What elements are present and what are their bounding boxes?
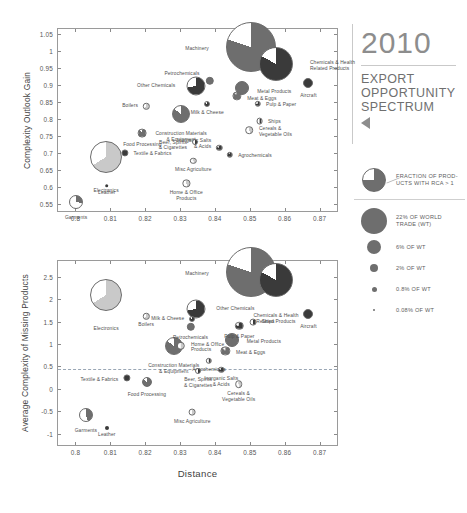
- data-point-label: Ships: [268, 119, 281, 125]
- data-point-bubble[interactable]: [216, 145, 222, 151]
- y-tick-mark: [58, 434, 61, 435]
- data-point-label: Other Chemicals: [216, 306, 254, 312]
- subtitle-line-3: SPECTRUM: [361, 100, 467, 114]
- y-tick-label: 0.75: [40, 133, 53, 140]
- data-point-bubble[interactable]: [250, 319, 257, 326]
- data-point-bubble[interactable]: [143, 103, 149, 109]
- y-tick-mark: [58, 85, 61, 86]
- data-point-label: Petrochemicals: [173, 335, 208, 341]
- data-point-bubble[interactable]: [190, 157, 196, 163]
- data-point-bubble[interactable]: [255, 101, 261, 107]
- data-point-bubble[interactable]: [69, 195, 83, 209]
- x-tick-mark: [180, 442, 181, 445]
- data-point-bubble[interactable]: [259, 47, 293, 81]
- data-point-label: Agrochemicals: [238, 153, 272, 159]
- data-point-label: Metal Products: [257, 89, 291, 95]
- data-point-bubble[interactable]: [235, 322, 243, 330]
- x-tick-mark: [110, 442, 111, 445]
- x-tick-mark: [285, 442, 286, 445]
- data-point-bubble[interactable]: [172, 105, 190, 123]
- y-tick-label: 1.05: [40, 31, 53, 38]
- y-tick-mark-right: [334, 322, 337, 323]
- data-point-bubble[interactable]: [177, 342, 185, 350]
- data-point-bubble[interactable]: [204, 101, 210, 107]
- data-point-bubble[interactable]: [245, 127, 253, 135]
- y-tick-mark-right: [334, 299, 337, 300]
- triangle-left-icon[interactable]: [361, 117, 370, 129]
- data-point-label: Garments: [65, 215, 87, 221]
- data-point-label: Machinery: [185, 271, 209, 277]
- year-heading: 2010: [361, 28, 432, 58]
- y-axis-title-top: Complexity Outlook Gain: [22, 71, 32, 168]
- data-point-bubble[interactable]: [206, 357, 212, 363]
- circle-icon: [373, 309, 375, 311]
- y-tick-mark-right: [334, 170, 337, 171]
- data-point-bubble[interactable]: [186, 300, 205, 319]
- data-point-bubble[interactable]: [256, 118, 263, 125]
- data-point-bubble[interactable]: [105, 184, 109, 188]
- data-point-label: Aircraft: [300, 324, 316, 330]
- data-point-bubble[interactable]: [123, 374, 130, 381]
- data-point-bubble[interactable]: [105, 426, 109, 430]
- data-point-bubble[interactable]: [142, 377, 152, 387]
- x-tick-label: 0.8: [71, 449, 80, 456]
- data-point-bubble[interactable]: [227, 152, 233, 158]
- data-point-bubble[interactable]: [121, 149, 128, 156]
- x-tick-mark-top: [180, 261, 181, 264]
- data-point-bubble[interactable]: [303, 309, 313, 319]
- legend-divider: [354, 199, 465, 200]
- legend-pie-swatch: [352, 168, 396, 192]
- circle-icon: [372, 287, 377, 292]
- data-point-label: Cereals & Vegetable Oils: [222, 391, 255, 402]
- data-point-bubble[interactable]: [303, 78, 313, 88]
- data-point-bubble[interactable]: [90, 141, 122, 173]
- chart-complexity-outlook-gain: Complexity Outlook Gain 0.80.810.820.830…: [0, 14, 348, 250]
- legend-size-label-line: 0.8% OF WT: [396, 286, 431, 293]
- y-tick-mark-right: [334, 51, 337, 52]
- legend-size-swatch: [352, 309, 396, 311]
- data-point-bubble[interactable]: [192, 139, 198, 145]
- legend-size-label-line: 22% OF WORLD: [396, 214, 442, 221]
- y-tick-label: 0.85: [40, 99, 53, 106]
- legend-size-list: 22% OF WORLDTRADE (WT)6% OF WT2% OF WT0.…: [352, 208, 467, 318]
- y-tick-mark-right: [334, 85, 337, 86]
- data-point-bubble[interactable]: [143, 313, 149, 319]
- legend-size-label: 2% OF WT: [396, 265, 426, 272]
- y-tick-mark: [58, 366, 61, 367]
- y-tick-label: 0.55: [40, 201, 53, 208]
- x-tick-mark: [215, 208, 216, 211]
- data-point-bubble[interactable]: [186, 77, 205, 96]
- data-point-bubble[interactable]: [79, 408, 93, 422]
- legend-size-label: 22% OF WORLDTRADE (WT): [396, 214, 442, 228]
- x-tick-mark: [320, 208, 321, 211]
- data-point-bubble[interactable]: [183, 180, 190, 187]
- data-point-bubble[interactable]: [189, 316, 195, 322]
- x-axis-title: Distance: [178, 468, 218, 479]
- legend-size-label-line: 6% OF WT: [396, 244, 426, 251]
- data-point-bubble[interactable]: [138, 129, 147, 138]
- legend-pie-row: FRACTION OF PROD- UCTS WITH RCA > 1: [352, 168, 467, 192]
- x-tick-mark-top: [145, 261, 146, 264]
- x-tick-mark-top: [215, 29, 216, 32]
- data-point-label: Electronics: [94, 326, 119, 332]
- data-point-bubble[interactable]: [259, 263, 293, 297]
- legend-size-swatch: [352, 264, 396, 273]
- legend-pie-label: FRACTION OF PROD- UCTS WITH RCA > 1: [396, 173, 458, 187]
- y-tick-mark: [58, 204, 61, 205]
- data-point-bubble[interactable]: [189, 409, 196, 416]
- data-point-bubble[interactable]: [186, 323, 194, 331]
- data-point-bubble[interactable]: [232, 91, 241, 100]
- data-point-bubble[interactable]: [90, 279, 122, 311]
- data-point-bubble[interactable]: [206, 77, 214, 85]
- x-tick-mark: [145, 442, 146, 445]
- y-tick-label: 2: [49, 296, 53, 303]
- data-point-label: Ships: [262, 320, 275, 326]
- data-point-bubble[interactable]: [195, 368, 201, 374]
- chart-average-complexity-missing-products: Average Complexity of Missing Products 0…: [0, 252, 348, 490]
- y-tick-label: 0: [49, 385, 53, 392]
- x-tick-mark-top: [285, 29, 286, 32]
- x-tick-mark-top: [215, 261, 216, 264]
- plot-area-bottom: 0.80.810.820.830.840.850.860.872.521.510…: [57, 260, 338, 446]
- y-tick-mark: [58, 299, 61, 300]
- y-tick-mark: [58, 411, 61, 412]
